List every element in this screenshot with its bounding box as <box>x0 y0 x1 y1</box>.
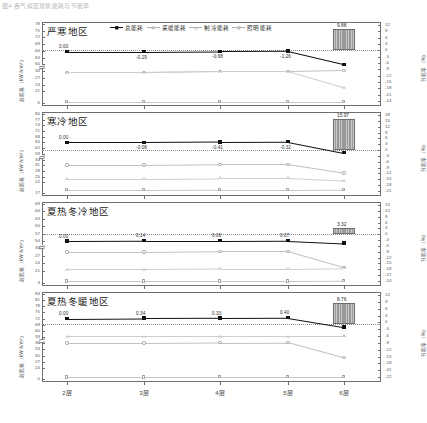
series-line-segment <box>220 318 288 319</box>
y2-tick-label: 0 <box>385 320 387 324</box>
data-point-marker <box>65 341 68 344</box>
data-point-marker <box>65 317 68 320</box>
data-point-label: 0.34 <box>136 311 145 316</box>
y2-tick-mark <box>378 336 381 337</box>
y-tick-mark <box>42 294 45 295</box>
data-point-label: 0.00 <box>59 311 68 316</box>
series-line-segment <box>220 377 288 378</box>
y2-tick-label: 3 <box>385 314 387 318</box>
data-point-marker <box>142 341 145 344</box>
series-line-segment <box>220 342 288 343</box>
y2-tick-label: -6 <box>385 334 389 338</box>
y2-tick-mark <box>378 377 381 378</box>
data-point-marker <box>65 375 68 378</box>
left-axis-title: 总能耗（kW·h/m²） <box>18 333 24 378</box>
data-point-marker <box>218 375 221 378</box>
chart-panel-4: 夏热冬暖地区848178757269603936333027240129630-… <box>0 0 427 423</box>
savings-rate-bar-label: 8.76 <box>337 297 346 302</box>
y2-tick-label: -12 <box>385 348 391 352</box>
right-axis-title: 节能率（%） <box>420 327 426 357</box>
y-tick-mark <box>42 349 45 350</box>
y-axis-break-icon <box>40 339 45 343</box>
x-tick-label: 5层 <box>274 388 302 397</box>
y-tick-mark <box>42 300 45 301</box>
data-point-marker <box>218 316 221 319</box>
series-line-segment <box>67 318 144 319</box>
data-point-marker <box>142 375 145 378</box>
panel-title: 夏热冬暖地区 <box>47 294 109 308</box>
y-tick-label: 78 <box>26 304 40 308</box>
series-line-segment <box>67 343 144 344</box>
data-point-marker <box>142 316 145 319</box>
y2-tick-mark <box>378 316 381 317</box>
y-tick-mark <box>42 368 45 369</box>
data-point-marker <box>342 375 345 378</box>
y-tick-mark <box>42 362 45 363</box>
x-tick-label: 6层 <box>330 388 358 397</box>
y2-tick-mark <box>378 302 381 303</box>
data-point-marker <box>142 335 146 338</box>
data-point-label: 0.40 <box>280 310 289 315</box>
y-tick-label: 24 <box>26 366 40 370</box>
y2-tick-label: -15 <box>385 355 391 359</box>
series-line-segment <box>67 336 144 337</box>
data-point-marker <box>286 341 289 344</box>
x-tick-mark <box>288 382 289 385</box>
y-tick-label: 30 <box>26 354 40 358</box>
y2-tick-mark <box>378 370 381 371</box>
y2-tick-mark <box>378 350 381 351</box>
y-tick-mark <box>42 306 45 307</box>
x-tick-mark <box>220 382 221 385</box>
y-tick-label: 60 <box>26 329 40 333</box>
data-point-label: 0.33 <box>212 311 221 316</box>
x-tick-mark <box>67 382 68 385</box>
data-point-marker <box>286 375 289 378</box>
series-line-segment <box>288 377 344 378</box>
y2-tick-label: -9 <box>385 341 389 345</box>
data-point-marker <box>218 335 222 338</box>
data-point-marker <box>342 325 345 328</box>
y2-tick-label: 6 <box>385 307 387 311</box>
y-tick-label: 75 <box>26 310 40 314</box>
y-tick-label: 72 <box>26 317 40 321</box>
y2-tick-label: -3 <box>385 327 389 331</box>
y2-tick-label: -18 <box>385 361 391 365</box>
y-tick-mark <box>42 331 45 332</box>
data-point-marker <box>342 356 345 359</box>
y2-tick-mark <box>378 309 381 310</box>
y2-tick-mark <box>378 363 381 364</box>
y2-tick-mark <box>378 343 381 344</box>
x-tick-mark <box>144 382 145 385</box>
y2-tick-label: -22 <box>385 375 391 379</box>
data-point-marker <box>65 335 69 338</box>
y2-tick-mark <box>378 357 381 358</box>
y-tick-label: 84 <box>26 292 40 296</box>
x-tick-label: 2层 <box>53 388 81 397</box>
series-line-segment <box>220 336 288 337</box>
series-line-segment <box>67 377 144 378</box>
y2-tick-label: -21 <box>385 368 391 372</box>
data-point-marker <box>342 334 346 337</box>
savings-rate-bar <box>333 303 355 324</box>
y-tick-mark <box>42 319 45 320</box>
y2-tick-mark <box>378 329 381 330</box>
data-point-marker <box>286 335 290 338</box>
y-tick-mark <box>42 343 45 344</box>
x-tick-label: 4层 <box>206 388 234 397</box>
x-tick-mark <box>344 382 345 385</box>
y-tick-mark <box>42 312 45 313</box>
y-tick-label: 27 <box>26 360 40 364</box>
y2-tick-label: 9 <box>385 300 387 304</box>
y-tick-label: 33 <box>26 347 40 351</box>
data-point-marker <box>218 341 221 344</box>
data-point-marker <box>286 316 289 319</box>
y-tick-label: 69 <box>26 323 40 327</box>
y-tick-label: 0 <box>26 377 40 381</box>
figure-root: 图4 各气候区建筑能耗与节能率 严寒地区78757269666360302724… <box>0 0 427 423</box>
y-tick-mark <box>42 379 45 380</box>
y2-tick-label: 12 <box>385 293 390 297</box>
y2-tick-mark <box>378 295 381 296</box>
y-tick-label: 81 <box>26 298 40 302</box>
y-tick-mark <box>42 356 45 357</box>
x-tick-label: 3层 <box>130 388 158 397</box>
